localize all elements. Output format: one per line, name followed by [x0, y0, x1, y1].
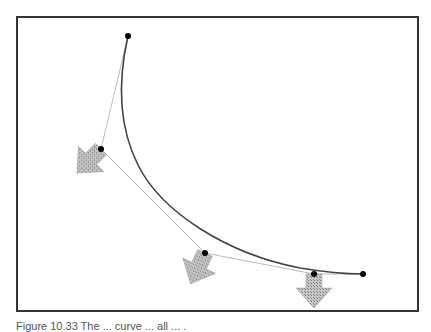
figure-frame — [17, 17, 418, 311]
figure-caption: Figure 10.33 The ... curve ... all ... . — [16, 320, 186, 332]
control-point-2 — [202, 250, 208, 256]
control-point-4 — [360, 271, 366, 277]
control-point-0 — [125, 33, 131, 39]
spline-figure — [0, 0, 431, 318]
control-point-3 — [311, 271, 317, 277]
control-point-1 — [98, 146, 104, 152]
